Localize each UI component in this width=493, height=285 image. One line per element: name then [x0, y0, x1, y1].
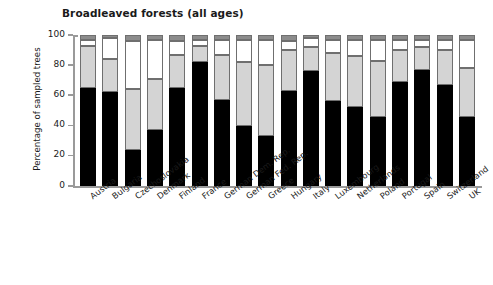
y-tick-mark	[68, 94, 73, 96]
bar-segment-light-gray-segment	[169, 55, 185, 88]
bar-segment-black-segment	[102, 92, 118, 186]
bar-bulgaria	[102, 35, 118, 186]
bar-segment-white-segment	[370, 40, 386, 61]
y-tick-label: 80	[54, 59, 65, 69]
bar-segment-light-gray-segment	[414, 47, 430, 70]
bar-segment-dark-gray-segment	[303, 35, 319, 38]
bar-segment-dark-gray-segment	[125, 35, 141, 41]
bar-segment-dark-gray-segment	[347, 35, 363, 40]
bar-segment-dark-gray-segment	[147, 35, 163, 40]
bar-netherlands	[347, 35, 363, 186]
y-tick-label: 100	[48, 29, 65, 39]
bar-segment-light-gray-segment	[214, 55, 230, 100]
bar-segment-dark-gray-segment	[459, 35, 475, 40]
bar-segment-white-segment	[437, 40, 453, 51]
bar-segment-light-gray-segment	[281, 50, 297, 91]
bar-spain	[414, 35, 430, 186]
bar-segment-light-gray-segment	[80, 46, 96, 88]
y-tick-label: 40	[54, 119, 65, 129]
bar-switzerland	[437, 35, 453, 186]
bar-segment-light-gray-segment	[236, 62, 252, 125]
bar-italy	[303, 35, 319, 186]
y-tick-mark	[68, 125, 73, 127]
chart-title: Broadleaved forests (all ages)	[62, 7, 482, 19]
bar-segment-white-segment	[414, 40, 430, 48]
bar-segment-light-gray-segment	[147, 79, 163, 130]
bar-segment-light-gray-segment	[347, 56, 363, 107]
bar-denmark	[147, 35, 163, 186]
bar-segment-white-segment	[125, 41, 141, 89]
bar-segment-white-segment	[147, 40, 163, 79]
bar-segment-dark-gray-segment	[325, 35, 341, 40]
bar-segment-dark-gray-segment	[214, 35, 230, 40]
y-tick-mark	[68, 155, 73, 157]
bar-czechoslovakia	[125, 35, 141, 186]
bar-segment-white-segment	[258, 40, 274, 66]
bar-segment-dark-gray-segment	[236, 35, 252, 40]
y-tick-label: 60	[54, 89, 65, 99]
y-tick-label: 20	[54, 149, 65, 159]
bar-segment-white-segment	[347, 40, 363, 57]
bar-segment-white-segment	[303, 38, 319, 47]
bar-segment-dark-gray-segment	[102, 35, 118, 38]
bar-segment-dark-gray-segment	[80, 35, 96, 40]
bar-segment-black-segment	[192, 62, 208, 186]
bar-segment-white-segment	[169, 41, 185, 55]
bar-luxembourg	[325, 35, 341, 186]
bar-segment-dark-gray-segment	[414, 35, 430, 40]
bar-austria	[80, 35, 96, 186]
bar-segment-dark-gray-segment	[169, 35, 185, 41]
bar-segment-black-segment	[214, 100, 230, 186]
plot-area: 020406080100	[73, 35, 482, 188]
bar-segment-light-gray-segment	[459, 68, 475, 116]
bar-segment-black-segment	[414, 70, 430, 186]
bar-segment-white-segment	[192, 40, 208, 46]
bar-segment-white-segment	[80, 40, 96, 46]
bar-segment-light-gray-segment	[370, 61, 386, 117]
y-axis-top-cap	[73, 35, 78, 37]
bar-segment-black-segment	[80, 88, 96, 186]
bar-segment-dark-gray-segment	[192, 35, 208, 40]
bar-segment-white-segment	[236, 40, 252, 63]
bar-segment-light-gray-segment	[325, 53, 341, 101]
y-tick-mark	[68, 185, 73, 187]
bar-segment-dark-gray-segment	[392, 35, 408, 40]
bar-segment-dark-gray-segment	[258, 35, 274, 40]
bar-german-dem-rep	[214, 35, 230, 186]
bar-segment-white-segment	[392, 40, 408, 51]
bar-segment-black-segment	[303, 71, 319, 186]
bar-uk	[459, 35, 475, 186]
bar-segment-dark-gray-segment	[437, 35, 453, 40]
bar-segment-black-segment	[325, 101, 341, 186]
bar-segment-light-gray-segment	[102, 59, 118, 92]
stacked-bar-chart: Broadleaved forests (all ages) Percentag…	[0, 0, 493, 285]
bar-german-fed-rep	[236, 35, 252, 186]
bar-segment-black-segment	[437, 85, 453, 186]
bar-segment-white-segment	[325, 40, 341, 54]
bar-segment-light-gray-segment	[437, 50, 453, 85]
x-label-uk: UK	[467, 186, 482, 201]
bar-segment-dark-gray-segment	[281, 35, 297, 41]
bar-segment-light-gray-segment	[258, 65, 274, 136]
bar-segment-white-segment	[102, 38, 118, 59]
bar-france	[192, 35, 208, 186]
y-tick-mark	[68, 64, 73, 66]
y-tick-label: 0	[59, 180, 65, 190]
bar-segment-light-gray-segment	[192, 46, 208, 63]
bar-segment-light-gray-segment	[125, 89, 141, 149]
bar-segment-white-segment	[281, 41, 297, 50]
y-axis-label: Percentage of sampled trees	[32, 29, 42, 189]
y-axis-spine	[73, 35, 75, 188]
bar-segment-white-segment	[214, 40, 230, 55]
bar-segment-white-segment	[459, 40, 475, 69]
y-tick-mark	[68, 34, 73, 36]
bar-segment-light-gray-segment	[392, 50, 408, 82]
bar-segment-dark-gray-segment	[370, 35, 386, 40]
bar-segment-light-gray-segment	[303, 47, 319, 71]
